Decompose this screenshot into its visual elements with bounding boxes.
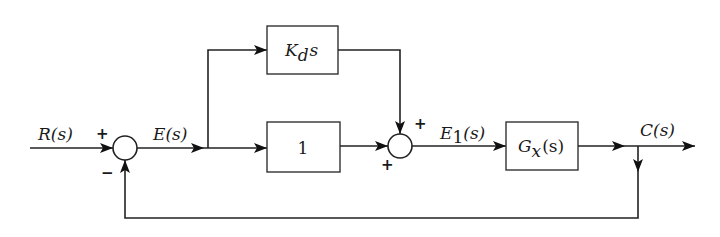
derivative-output-line [338,50,400,134]
block-diagram: Kds 1 Gx(s) R(s) E(s) E1(s) C(s) + − + + [0,0,720,237]
error-label: E(s) [152,124,187,144]
proportional-block-label: 1 [298,138,309,158]
sum1-plus-sign: + [96,125,109,143]
sum2-left-plus-sign: + [381,156,394,174]
sum1-minus-sign: − [101,164,114,182]
derivative-branch-line [208,50,267,148]
sum2-top-plus-sign: + [414,115,427,133]
error1-label: E1(s) [439,123,485,147]
output-label: C(s) [640,120,675,140]
summing-junction-1 [113,136,137,160]
input-label: R(s) [37,124,73,144]
summing-junction-2 [388,134,412,158]
